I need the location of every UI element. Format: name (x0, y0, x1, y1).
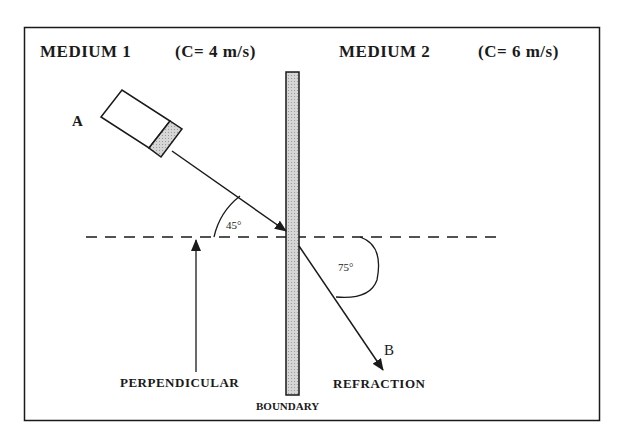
medium-2-speed: (C= 6 m/s) (478, 42, 559, 62)
incident-angle-label: 45° (226, 219, 241, 231)
refraction-label: REFRACTION (333, 376, 425, 392)
refracted-angle-label: 75° (338, 261, 353, 273)
point-b-label: B (384, 342, 394, 359)
refraction-diagram (0, 0, 623, 448)
medium-1-speed: (C= 4 m/s) (175, 42, 256, 62)
boundary-label: BOUNDARY (256, 400, 319, 412)
point-a-label: A (72, 113, 83, 130)
wave-source-device (101, 90, 182, 157)
boundary-bar (286, 72, 299, 395)
medium-1-title: MEDIUM 1 (40, 42, 131, 62)
perpendicular-label: PERPENDICULAR (120, 375, 239, 391)
medium-2-title: MEDIUM 2 (339, 42, 430, 62)
diagram-frame (25, 28, 600, 421)
